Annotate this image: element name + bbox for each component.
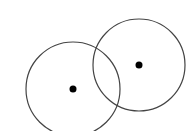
left-circle-group: [26, 42, 120, 131]
right-circle-center-dot: [136, 62, 143, 69]
overlapping-circles-diagram: [0, 0, 186, 131]
right-circle-group: [93, 19, 185, 111]
left-circle-center-dot: [70, 86, 77, 93]
